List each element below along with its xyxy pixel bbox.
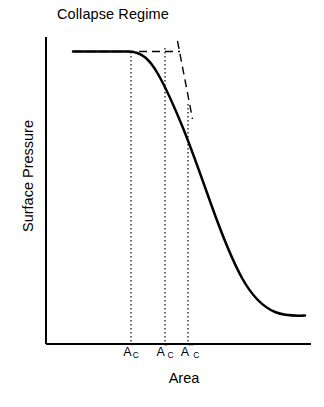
y-axis-label: Surface Pressure xyxy=(20,76,36,276)
tick-label-a-c-triple-prime: A′′′C xyxy=(181,341,200,360)
tick-label-a-c-double-prime: A′′C xyxy=(156,341,173,360)
tick-label-a-c-triple-prime-subscript: C xyxy=(193,350,199,360)
tick-label-a-c-prime: A′C xyxy=(123,341,139,360)
isotherm-curve xyxy=(73,52,305,316)
tangent-dashed-line xyxy=(178,41,193,119)
tick-label-a-c-prime-subscript: C xyxy=(133,350,139,360)
x-axis-label-text: Area xyxy=(169,370,200,386)
x-axis-label: Area xyxy=(0,370,324,386)
tick-label-a-c-double-prime-subscript: C xyxy=(167,350,173,360)
figure-container: Collapse Regime Surface Pressure Area A′… xyxy=(0,0,324,407)
chart-title: Collapse Regime xyxy=(57,6,169,22)
